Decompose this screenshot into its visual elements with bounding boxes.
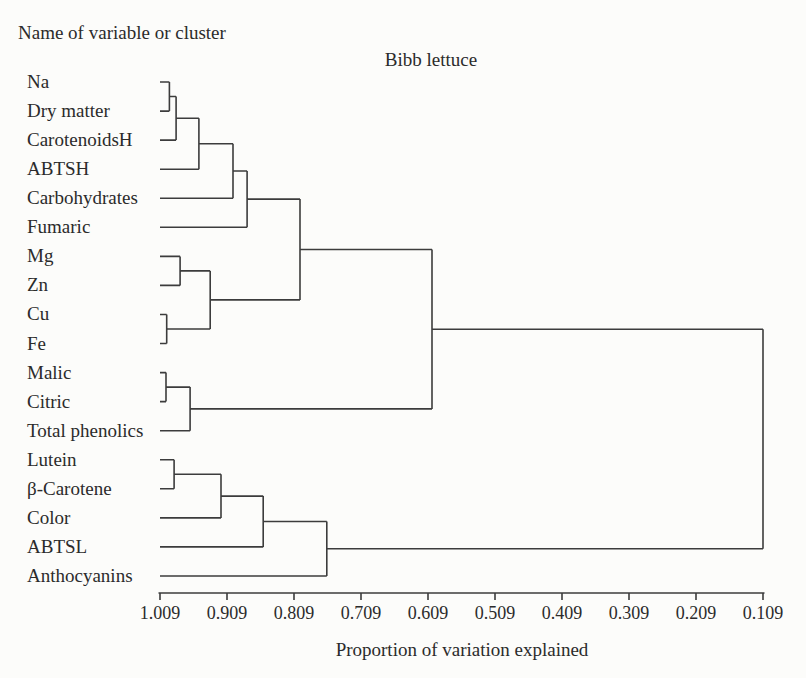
leaf-label-malic: Malic <box>27 361 71 385</box>
dendrogram-figure: Name of variable or cluster Bibb lettuce… <box>0 0 806 678</box>
x-tick-label-1-009: 1.009 <box>128 603 192 624</box>
leaf-label-color: Color <box>27 506 70 530</box>
leaf-label-fe: Fe <box>27 332 46 356</box>
leaf-label-carotenoidsh: CarotenoidsH <box>27 128 133 152</box>
leaf-label-na: Na <box>27 70 49 94</box>
x-tick-label-0-309: 0.309 <box>597 603 661 624</box>
x-axis-title: Proportion of variation explained <box>336 639 589 661</box>
x-tick-label-0-409: 0.409 <box>530 603 594 624</box>
x-tick-label-0-209: 0.209 <box>664 603 728 624</box>
x-tick-label-0-709: 0.709 <box>329 603 393 624</box>
x-tick-label-0-809: 0.809 <box>262 603 326 624</box>
leaf-label-anthocyanins: Anthocyanins <box>27 564 133 588</box>
x-tick-label-0-909: 0.909 <box>195 603 259 624</box>
leaf-label-mg: Mg <box>27 244 53 268</box>
leaf-label-cu: Cu <box>27 302 49 326</box>
leaf-label-fumaric: Fumaric <box>27 215 90 239</box>
leaf-label-total-phenolics: Total phenolics <box>27 419 143 443</box>
leaf-label-abtsh: ABTSH <box>27 157 89 181</box>
x-tick-label-0-509: 0.509 <box>463 603 527 624</box>
dendrogram-links <box>160 82 763 576</box>
leaf-label-zn: Zn <box>27 273 48 297</box>
leaf-label-lutein: Lutein <box>27 448 77 472</box>
leaf-label-citric: Citric <box>27 390 70 414</box>
x-tick-label-0-609: 0.609 <box>396 603 460 624</box>
leaf-label-carbohydrates: Carbohydrates <box>27 186 138 210</box>
leaf-label-carotene: β-Carotene <box>27 477 112 501</box>
x-axis-line-and-ticks <box>159 593 765 600</box>
leaf-label-dry-matter: Dry matter <box>27 99 110 123</box>
x-tick-label-0-109: 0.109 <box>731 603 795 624</box>
leaf-label-abtsl: ABTSL <box>27 535 87 559</box>
